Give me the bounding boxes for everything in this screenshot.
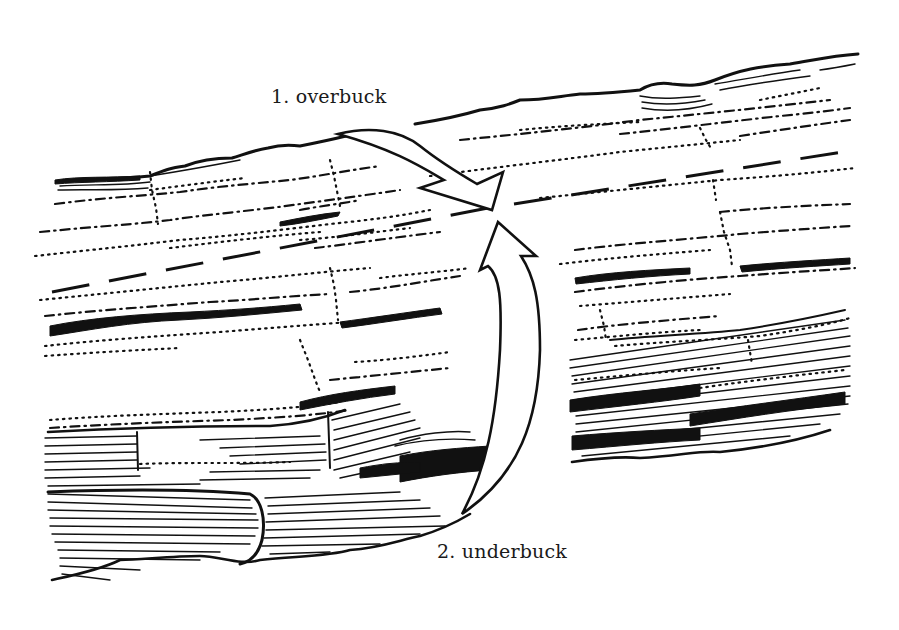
grain-lines-middle xyxy=(40,212,855,392)
log-bucking-diagram: 1. overbuck 2. underbuck xyxy=(0,0,899,630)
underbuck-label: 2. underbuck xyxy=(437,540,567,562)
log-top-edge xyxy=(55,54,858,190)
log-illustration xyxy=(0,0,899,630)
overbuck-label: 1. overbuck xyxy=(271,85,386,107)
overbuck-arrow xyxy=(338,130,503,210)
